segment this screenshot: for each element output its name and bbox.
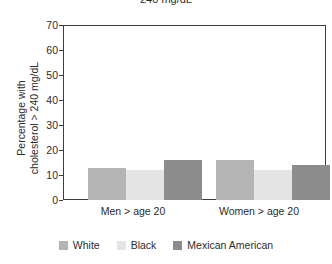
y-tick-label-70: 70 bbox=[28, 20, 58, 31]
y-tick-label-40: 40 bbox=[28, 95, 58, 106]
y-tick-label-10: 10 bbox=[28, 170, 58, 181]
legend-swatch-mexican-american bbox=[173, 241, 182, 250]
legend-item-mexican-american: Mexican American bbox=[173, 239, 273, 251]
bar-women-mexican-american bbox=[292, 165, 330, 200]
bar-chart-figure: 240 mg/dL Percentage with cholesterol > … bbox=[0, 0, 332, 264]
legend-item-black: Black bbox=[117, 239, 157, 251]
y-tick-label-20: 20 bbox=[28, 145, 58, 156]
bar-men-mexican-american bbox=[164, 160, 202, 200]
x-axis-label-men: Men > age 20 bbox=[64, 205, 202, 218]
chart-legend: White Black Mexican American bbox=[0, 239, 332, 251]
legend-swatch-black bbox=[117, 241, 126, 250]
legend-label-white: White bbox=[73, 239, 100, 251]
bar-men-black bbox=[126, 170, 164, 200]
bars-container bbox=[64, 26, 325, 200]
legend-swatch-white bbox=[59, 241, 68, 250]
x-axis-label-women: Women > age 20 bbox=[190, 205, 328, 218]
bar-women-black bbox=[254, 170, 292, 200]
y-tick-mark-0 bbox=[59, 200, 63, 201]
bar-men-white bbox=[88, 168, 126, 200]
legend-label-mexican-american: Mexican American bbox=[187, 239, 273, 251]
bar-women-white bbox=[216, 160, 254, 200]
legend-label-black: Black bbox=[131, 239, 157, 251]
y-tick-label-0: 0 bbox=[28, 195, 58, 206]
y-tick-label-60: 60 bbox=[28, 45, 58, 56]
legend-item-white: White bbox=[59, 239, 100, 251]
y-tick-label-30: 30 bbox=[28, 120, 58, 131]
y-tick-label-50: 50 bbox=[28, 70, 58, 81]
